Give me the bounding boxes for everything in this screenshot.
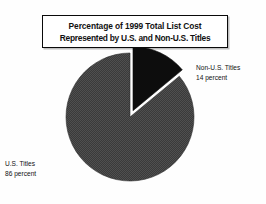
- pie-graphic: [62, 47, 202, 187]
- callout-us-value: 86 percent: [5, 169, 36, 179]
- callout-non-us-name: Non-U.S. Titles: [196, 63, 240, 73]
- pie-chart-figure: Percentage of 1999 Total List Cost Repre…: [0, 0, 266, 204]
- chart-title-line-1: Percentage of 1999 Total List Cost: [69, 20, 202, 32]
- callout-label-us: U.S. Titles 86 percent: [5, 159, 36, 178]
- callout-non-us-value: 14 percent: [196, 73, 240, 83]
- chart-title-line-2: Represented by U.S. and Non-U.S. Titles: [60, 32, 211, 44]
- chart-title-box: Percentage of 1999 Total List Cost Repre…: [42, 15, 228, 48]
- callout-us-name: U.S. Titles: [5, 159, 36, 169]
- pie-svg: [62, 47, 202, 187]
- callout-label-non-us: Non-U.S. Titles 14 percent: [196, 63, 240, 82]
